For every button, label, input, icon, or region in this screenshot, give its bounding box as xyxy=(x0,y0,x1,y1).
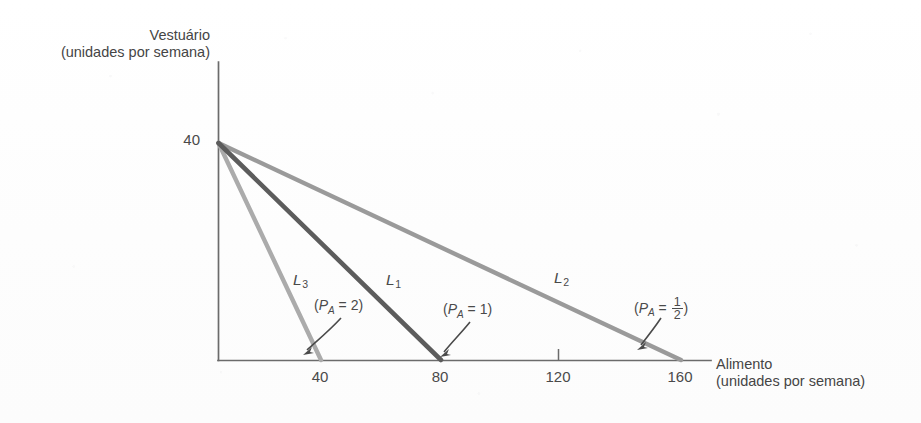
budget-line-L2 xyxy=(219,143,682,360)
curve-label-L3-text: L xyxy=(293,271,302,288)
x-axis-title: Alimento xyxy=(716,356,865,373)
pa1-variable: P xyxy=(448,301,457,317)
pa2-variable: P xyxy=(319,297,328,313)
budget-line-L3 xyxy=(219,143,322,360)
x-axis-subtitle: (unidades por semana) xyxy=(716,373,865,390)
pahalf-close-paren: ) xyxy=(684,300,689,316)
budget-line-L1 xyxy=(219,143,442,360)
pa1-value: = 1) xyxy=(464,301,492,317)
curve-label-L2-text: L xyxy=(554,269,563,286)
x-axis-label: Alimento (unidades por semana) xyxy=(716,356,865,390)
y-axis-title: Vestuário xyxy=(0,27,210,44)
x-tick-label-160: 160 xyxy=(658,368,702,385)
annotation-arrow-pa1 xyxy=(440,322,470,357)
curve-label-L1-text: L xyxy=(386,271,395,288)
pa1-subscript: A xyxy=(457,309,464,320)
pahalf-subscript: A xyxy=(648,307,655,318)
pa2-subscript: A xyxy=(328,305,335,316)
pa2-value: = 2) xyxy=(335,297,363,313)
annotation-price-food-2: (PA = 2) xyxy=(314,297,363,313)
figure-root: Vestuário (unidades por semana) Alimento… xyxy=(0,0,921,423)
y-tick-label-40: 40 xyxy=(150,131,200,148)
curve-label-L3: L3 xyxy=(293,271,307,289)
x-tick-label-40: 40 xyxy=(298,368,342,385)
curve-label-L3-sub: 3 xyxy=(302,278,308,290)
curve-label-L2: L2 xyxy=(554,269,568,287)
x-tick-label-120: 120 xyxy=(536,368,580,385)
y-axis-label: Vestuário (unidades por semana) xyxy=(0,27,210,61)
curve-label-L1: L1 xyxy=(386,271,400,289)
annotation-price-food-1: (PA = 1) xyxy=(443,301,492,317)
y-axis-subtitle: (unidades por semana) xyxy=(0,44,210,61)
x-tick-label-80: 80 xyxy=(418,368,462,385)
pahalf-numerator: 1 xyxy=(672,296,683,309)
annotation-price-food-half: (PA = 12) xyxy=(634,296,688,323)
pahalf-equals: = xyxy=(655,300,671,316)
pahalf-variable: P xyxy=(639,300,648,316)
pahalf-fraction: 12 xyxy=(672,296,683,323)
curve-label-L1-sub: 1 xyxy=(395,278,401,290)
curve-label-L2-sub: 2 xyxy=(563,276,569,288)
pahalf-denominator: 2 xyxy=(672,308,683,322)
